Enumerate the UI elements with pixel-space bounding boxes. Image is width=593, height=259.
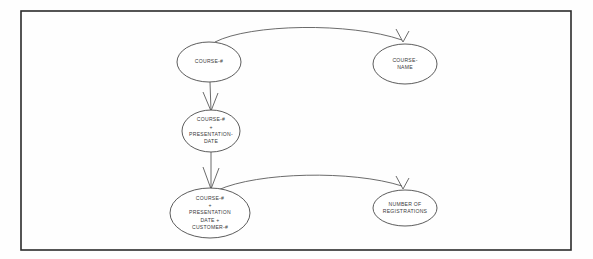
frame-border bbox=[21, 11, 571, 250]
course-presentation-customer-node-label-line: COURSE-# bbox=[196, 195, 224, 201]
edge-customer-to-registrations-line bbox=[218, 175, 402, 190]
course-name-node-label-line: COURSE- bbox=[392, 57, 417, 63]
diagram-frame bbox=[21, 11, 571, 250]
course-presentation-customer-node[interactable]: COURSE-#+PRESENTATIONDATE +CUSTOMER-# bbox=[170, 188, 250, 238]
course-name-node-label-line: NAME bbox=[397, 64, 413, 70]
edge-customer-to-registrations bbox=[218, 175, 409, 190]
diagram-canvas: COURSE-#COURSE-NAMECOURSE-#+PRESENTATION… bbox=[0, 0, 593, 259]
edge-course-number-to-presentation-date-line bbox=[210, 82, 211, 111]
edge-presentation-date-to-customer bbox=[203, 152, 219, 189]
course-number-presentation-date-node-label-line: COURSE-# bbox=[197, 116, 225, 122]
arrow-head-icon bbox=[396, 176, 409, 189]
course-presentation-customer-node-label-line: + bbox=[208, 202, 211, 208]
course-name-node[interactable]: COURSE-NAME bbox=[373, 44, 437, 84]
course-presentation-customer-node-label-line: DATE + bbox=[200, 217, 219, 223]
course-presentation-customer-node-label-line: PRESENTATION bbox=[189, 209, 231, 215]
diagram-nodes: COURSE-#COURSE-NAMECOURSE-#+PRESENTATION… bbox=[170, 42, 437, 238]
edge-course-number-to-presentation-date bbox=[203, 82, 218, 111]
edge-course-number-to-course-name-line bbox=[215, 27, 402, 42]
course-number-presentation-date-node[interactable]: COURSE-#+PRESENTATION-DATE bbox=[182, 110, 240, 152]
course-number-presentation-date-node-label-line: PRESENTATION- bbox=[189, 131, 233, 137]
course-number-presentation-date-node-label-line: + bbox=[209, 124, 212, 130]
course-number-node[interactable]: COURSE-# bbox=[177, 42, 241, 82]
course-number-node-label-line: COURSE-# bbox=[195, 58, 223, 64]
edge-course-number-to-course-name bbox=[215, 27, 409, 42]
diagram-svg: COURSE-#COURSE-NAMECOURSE-#+PRESENTATION… bbox=[0, 0, 593, 259]
course-presentation-customer-node-label-line: CUSTOMER-# bbox=[192, 224, 228, 230]
number-of-registrations-node-label-line: REGISTRATIONS bbox=[383, 208, 428, 214]
number-of-registrations-node-label-line: NUMBER OF bbox=[389, 201, 422, 207]
course-number-presentation-date-node-label-line: DATE bbox=[204, 138, 219, 144]
arrow-head-icon bbox=[396, 29, 409, 42]
number-of-registrations-node[interactable]: NUMBER OFREGISTRATIONS bbox=[373, 190, 437, 226]
